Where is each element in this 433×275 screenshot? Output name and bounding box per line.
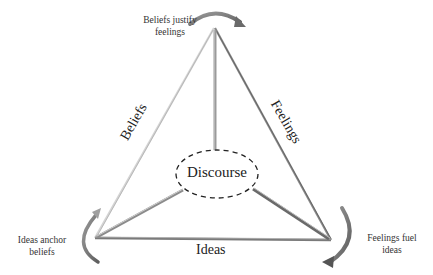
annotation-bottom-left-line1: Ideas anchor: [6, 234, 78, 246]
annotation-top-line2: feelings: [130, 26, 210, 38]
side-label-ideas: Ideas: [196, 242, 226, 258]
curved-arrow-bottom-right-icon: [330, 208, 350, 262]
cycle-arrows: [83, 13, 349, 268]
annotation-bottom-right: Feelings fuel ideas: [356, 232, 428, 256]
annotation-bottom-right-line2: ideas: [356, 244, 428, 256]
discourse-label: Discourse: [176, 164, 258, 181]
annotation-top: Beliefs justify feelings: [130, 14, 210, 38]
annotation-bottom-right-line1: Feelings fuel: [356, 232, 428, 244]
annotation-bottom-left: Ideas anchor beliefs: [6, 234, 78, 258]
annotation-top-line1: Beliefs justify: [130, 14, 210, 26]
annotation-bottom-left-line2: beliefs: [6, 246, 78, 258]
